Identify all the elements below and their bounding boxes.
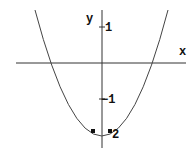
y-tick-label-neg2: 2 <box>112 129 119 141</box>
y-axis-label: y <box>86 13 93 25</box>
parabola-chart <box>0 0 190 150</box>
y-tick-label-1: 1 <box>105 22 112 34</box>
point-marker-left <box>91 129 95 133</box>
y-tick-label-neg1: −1 <box>101 94 115 106</box>
x-axis-label: x <box>179 46 186 58</box>
